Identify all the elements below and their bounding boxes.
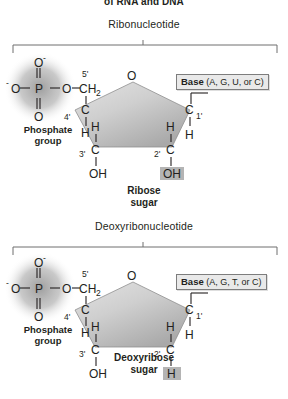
sugar-name-line1-dna: Deoxyribose: [114, 352, 174, 363]
phosphate-group-label: Phosphate group: [0, 324, 96, 346]
sugar-caption-rna: Ribose sugar: [0, 185, 288, 208]
c1-carbon-label: C: [185, 303, 194, 317]
c1-carbon-label: C: [185, 103, 194, 117]
c4-prime-label: 4': [64, 112, 71, 122]
phosphate-bottom-oxygen: O: [34, 110, 43, 124]
c5-carbon-label: CH: [79, 82, 96, 96]
phosphate-top-charge: -: [43, 53, 46, 63]
sugar-caption-dna: Deoxyribose sugar: [0, 352, 288, 375]
phosphate-left-charge: -: [6, 78, 9, 88]
phosphate-left-oxygen: O: [11, 282, 20, 296]
c5-subscript: 2: [96, 88, 101, 98]
phosphate-ester-oxygen: O: [62, 282, 71, 296]
phosphate-group-label-line1: Phosphate: [24, 324, 73, 335]
c2-group-label: OH: [163, 167, 181, 181]
c2-hydrogen: H: [166, 320, 175, 334]
c2-prime-label: 2': [154, 149, 161, 159]
base-options-rna: (A, G, U, or C): [206, 77, 264, 87]
base-options-dna: (A, G, T, or C): [206, 277, 261, 287]
c2-hydrogen: H: [166, 120, 175, 134]
phosphate-top-oxygen: O: [34, 256, 43, 270]
base-label-dna: Base: [181, 276, 204, 287]
c4-prime-label: 4': [64, 312, 71, 322]
phosphate-group-label-line2: group: [35, 335, 62, 346]
c3-prime-label: 3': [79, 149, 86, 159]
c1-hydrogen: H: [185, 328, 194, 342]
c4-carbon-label: C: [81, 303, 90, 317]
phosphate-left-charge: -: [6, 278, 9, 288]
deoxyribose-ring-oxygen: O: [127, 269, 136, 283]
phosphate-top-oxygen: O: [34, 56, 43, 70]
phosphate-left-oxygen: O: [11, 82, 20, 96]
c5-prime-label: 5': [82, 269, 89, 279]
base-label-rna: Base: [181, 76, 204, 87]
figure-canvas: of RNA and DNA Ribonucleotide: [0, 0, 288, 399]
base-box-rna[interactable]: Base (A, G, U, or C): [176, 74, 269, 90]
c1-prime-label: 1': [196, 311, 203, 321]
c3-hydroxyl: OH: [89, 167, 107, 181]
phosphate-group-label-line1: Phosphate: [24, 124, 73, 135]
sugar-name-line2-dna: sugar: [130, 364, 157, 375]
base-box-dna[interactable]: Base (A, G, T, or C): [176, 274, 267, 290]
phosphorus-atom: P: [35, 82, 43, 96]
phosphate-bottom-oxygen: O: [34, 310, 43, 324]
c4-carbon-label: C: [81, 103, 90, 117]
phosphate-group-label-line2: group: [35, 135, 62, 146]
sugar-name-line1-rna: Ribose: [127, 185, 160, 196]
c5-carbon-label: CH: [79, 282, 96, 296]
c2-carbon-label: C: [166, 143, 175, 157]
c5-subscript: 2: [96, 288, 101, 298]
panel-deoxyribonucleotide: Deoxyribonucleotide: [0, 206, 288, 399]
panel-ribonucleotide: Ribonucleotide: [0, 0, 288, 210]
phosphate-ester-oxygen: O: [62, 82, 71, 96]
phosphate-group-label: Phosphate group: [0, 124, 96, 146]
phosphorus-atom: P: [35, 282, 43, 296]
ribose-ring-oxygen: O: [127, 69, 136, 83]
structure-ribonucleotide: P O - O - O O 5' CH 2 C 4' H O C 1' H: [0, 0, 288, 210]
c1-hydrogen: H: [185, 128, 194, 142]
c1-prime-label: 1': [196, 111, 203, 121]
c5-prime-label: 5': [82, 69, 89, 79]
phosphate-top-charge: -: [43, 253, 46, 263]
